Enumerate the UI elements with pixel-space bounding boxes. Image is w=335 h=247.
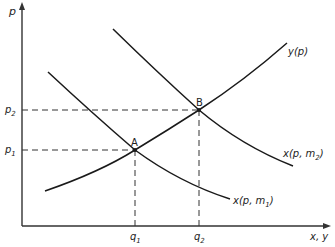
supply-curve-y-p bbox=[45, 43, 287, 191]
p2-label: p2 bbox=[4, 104, 16, 118]
p1-label: p1 bbox=[4, 144, 16, 158]
x-axis-label: x, y bbox=[309, 231, 329, 242]
point-b-marker bbox=[197, 108, 201, 112]
y-axis-label: p bbox=[8, 5, 16, 18]
supply-curve-label: y(p) bbox=[287, 46, 308, 57]
supply-demand-diagram: p x, y A B p2 p1 q1 q2 bbox=[0, 0, 335, 247]
demand-m2-label: x(p, m2) bbox=[282, 148, 324, 162]
y-axis-arrow-icon bbox=[19, 2, 25, 10]
point-b-label: B bbox=[196, 97, 203, 108]
x-axis-arrow-icon bbox=[323, 223, 331, 229]
demand-curve-m2 bbox=[113, 29, 293, 166]
demand-m1-label: x(p, m1) bbox=[232, 195, 274, 209]
point-a-label: A bbox=[131, 137, 138, 148]
q2-label: q2 bbox=[194, 231, 205, 245]
axes bbox=[19, 2, 331, 229]
q1-label: q1 bbox=[130, 231, 141, 245]
point-a-marker bbox=[133, 148, 137, 152]
